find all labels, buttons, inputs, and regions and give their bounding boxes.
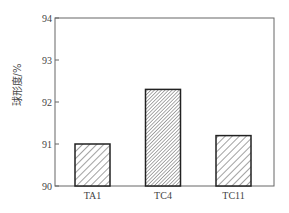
y-tick-label: 91 <box>42 139 52 150</box>
y-tick-label: 93 <box>42 55 52 66</box>
bars <box>75 89 251 186</box>
y-axis-ticks: 9091929394 <box>42 13 59 192</box>
x-tick-label: TC4 <box>154 190 172 201</box>
x-tick-label: TC11 <box>222 190 244 201</box>
y-axis-label: 球形度/% <box>9 64 24 107</box>
y-tick-label: 90 <box>42 181 52 192</box>
x-tick-label: TA1 <box>84 190 102 201</box>
y-tick-label: 92 <box>42 97 52 108</box>
bar-chart: 9091929394 TA1TC4TC11 <box>0 0 289 213</box>
bar-ta1 <box>75 144 110 186</box>
bar-tc4 <box>146 89 181 186</box>
y-tick-label: 94 <box>42 13 52 24</box>
x-axis-labels: TA1TC4TC11 <box>84 190 245 201</box>
bar-tc11 <box>216 136 251 186</box>
